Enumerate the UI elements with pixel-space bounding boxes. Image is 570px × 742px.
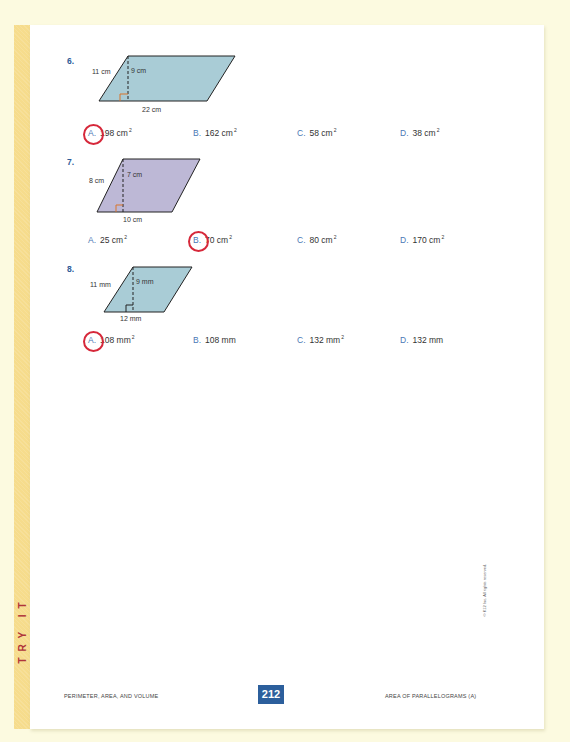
choice-c[interactable]: C.132 mm2 xyxy=(297,334,344,345)
choice-b[interactable]: B.108 mm xyxy=(193,334,237,345)
choice-a[interactable]: A.108 mm2 xyxy=(88,334,135,345)
choice-value: 108 mm xyxy=(100,335,131,345)
choice-value: 132 mm xyxy=(413,335,444,345)
choice-letter: D. xyxy=(400,335,409,345)
parallelogram-diagram xyxy=(0,0,570,742)
choice-exponent: 2 xyxy=(132,334,135,340)
choice-value: 108 mm xyxy=(205,335,236,345)
base-label-dimension: 12 mm xyxy=(120,315,141,322)
choice-letter: C. xyxy=(297,335,306,345)
choice-value: 132 mm xyxy=(310,335,341,345)
footer-lesson-title: AREA OF PARALLELOGRAMS (A) xyxy=(385,693,476,699)
choice-d[interactable]: D.132 mm xyxy=(400,334,444,345)
copyright-notice: © K12 Inc. All rights reserved. xyxy=(482,564,487,617)
height-label-dimension: 9 mm xyxy=(136,278,154,285)
footer-unit-title: PERIMETER, AREA, AND VOLUME xyxy=(64,693,158,699)
choice-letter: B. xyxy=(193,335,201,345)
page-number: 212 xyxy=(258,685,284,704)
side-label-dimension: 11 mm xyxy=(90,281,111,288)
choice-exponent: 2 xyxy=(341,334,344,340)
choice-letter: A. xyxy=(88,335,96,345)
